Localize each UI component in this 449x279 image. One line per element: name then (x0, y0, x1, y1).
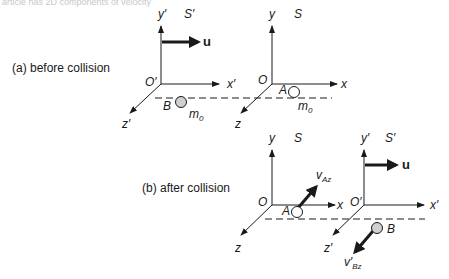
origin-prime-label: O′ (350, 195, 362, 209)
y-prime-label: y′ (157, 7, 167, 21)
ball-a-mass: m0 (298, 99, 313, 115)
panel-a: (a) before collision y′ S′ x′ z′ O′ u y … (12, 7, 348, 131)
s-prime-label: S′ (184, 7, 195, 21)
velocity-a-label: vAz (316, 168, 331, 184)
velocity-u-label: u (203, 34, 211, 49)
ball-a (289, 87, 300, 98)
ball-a-label: A (278, 83, 287, 97)
s-prime-label: S′ (385, 131, 396, 145)
z-label: z (234, 241, 241, 255)
frame-s-prime-b: y′ S′ x′ z′ O′ u (323, 131, 439, 255)
ball-a-label: A (281, 204, 290, 218)
origin-label: O (258, 195, 267, 209)
header-fragment: article has 2D components of velocity (2, 0, 152, 7)
z-label: z (234, 117, 241, 131)
frame-s-a: y S x z O (234, 7, 348, 131)
ball-b-mass: m0 (189, 107, 204, 123)
x-prime-label: x′ (226, 77, 236, 91)
x-label: x (336, 198, 344, 212)
caption-b: (b) after collision (142, 181, 230, 195)
frame-s-prime-a: y′ S′ x′ z′ O′ u (121, 7, 236, 131)
velocity-b-label: v′Bz (344, 255, 362, 271)
s-label: S (294, 7, 302, 21)
y-label: y (268, 131, 276, 145)
x-label: x (340, 77, 348, 91)
z-prime-label: z′ (323, 241, 333, 255)
velocity-b-arrow (355, 231, 373, 252)
ball-b (372, 223, 383, 234)
y-label: y (268, 7, 276, 21)
z-axis (241, 205, 272, 235)
z-prime-label: z′ (121, 117, 131, 131)
collision-diagram: article has 2D components of velocity (a… (0, 0, 449, 279)
s-label: S (294, 131, 302, 145)
frame-s-b: y S x z O (234, 131, 344, 255)
ball-b-label: B (163, 99, 171, 113)
ball-b-label: B (387, 222, 395, 236)
ball-a (292, 207, 303, 218)
origin-label: O (258, 73, 267, 87)
origin-prime-label: O′ (145, 75, 157, 89)
panel-b: (b) after collision y S x z O y′ S′ x′ z… (142, 131, 439, 271)
y-prime-label: y′ (360, 131, 370, 145)
x-prime-label: x′ (429, 198, 439, 212)
velocity-u-label: u (402, 157, 410, 172)
ball-b (176, 97, 187, 108)
caption-a: (a) before collision (12, 61, 110, 75)
